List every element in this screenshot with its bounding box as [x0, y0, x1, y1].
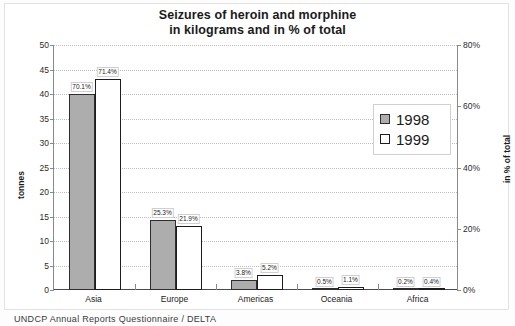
y-tick-label-left: 15: [25, 212, 49, 222]
y-tick-label-right: 80%: [463, 40, 497, 50]
chart-frame: Seizures of heroin and morphine in kilog…: [4, 3, 509, 310]
legend-swatch-1998-icon: [380, 114, 390, 124]
y-tick-left: [50, 143, 54, 144]
category-separator: [216, 284, 217, 290]
y-tick-label-left: 35: [25, 114, 49, 124]
y-tick-label-left: 30: [25, 138, 49, 148]
bar-europe-1999: [176, 226, 202, 290]
y-tick-label-left: 40: [25, 89, 49, 99]
data-label-asia-1998: 70.1%: [70, 82, 92, 92]
gridline: [54, 45, 457, 46]
y-tick-label-right: 40%: [463, 163, 497, 173]
x-tick-label-oceania: Oceania: [321, 294, 353, 304]
y-tick-label-left: 10: [25, 236, 49, 246]
bar-americas-1999: [257, 275, 283, 290]
y-tick-left: [50, 241, 54, 242]
y-tick-left: [50, 290, 54, 291]
data-label-europe-1998: 25.3%: [151, 208, 173, 218]
y-tick-right: [457, 229, 461, 230]
y-tick-left: [50, 192, 54, 193]
bar-europe-1998: [150, 220, 176, 290]
data-label-americas-1998: 3.8%: [234, 268, 253, 278]
y-tick-right: [457, 106, 461, 107]
data-label-africa-1998: 0.2%: [396, 277, 415, 287]
y-tick-left: [50, 217, 54, 218]
data-label-europe-1999: 21.9%: [177, 214, 199, 224]
y-tick-label-left: 0: [25, 285, 49, 295]
x-tick-label-americas: Americas: [238, 294, 273, 304]
y-tick-right: [457, 290, 461, 291]
legend-item-1999: 1999: [380, 129, 445, 149]
legend-swatch-1999-icon: [380, 134, 390, 144]
data-label-oceania-1998: 0.5%: [315, 277, 334, 287]
data-label-asia-1999: 71.4%: [96, 67, 118, 77]
y-tick-left: [50, 45, 54, 46]
bar-oceania-1998: [312, 288, 338, 290]
chart-title-line-1: Seizures of heroin and morphine: [159, 8, 357, 22]
category-separator: [135, 284, 136, 290]
x-tick-label-asia: Asia: [85, 294, 102, 304]
bar-asia-1998: [69, 94, 95, 290]
y-tick-label-right: 60%: [463, 101, 497, 111]
y-tick-left: [50, 168, 54, 169]
y-tick-label-right: 0%: [463, 285, 497, 295]
y-tick-label-left: 50: [25, 40, 49, 50]
y-tick-label-left: 25: [25, 163, 49, 173]
y-tick-left: [50, 266, 54, 267]
y-tick-left: [50, 119, 54, 120]
plot-area: 70.1%71.4%25.3%21.9%3.8%5.2%0.5%1.1%0.2%…: [53, 45, 458, 290]
category-separator: [297, 284, 298, 290]
chart-screenshot: Seizures of heroin and morphine in kilog…: [0, 0, 515, 326]
y-axis-title-right: in % of total: [502, 119, 512, 199]
chart-legend: 1998 1999: [373, 104, 451, 155]
bar-asia-1999: [95, 79, 121, 290]
legend-item-1998: 1998: [380, 109, 445, 129]
legend-label-1999: 1999: [396, 131, 429, 148]
y-tick-label-left: 45: [25, 65, 49, 75]
y-tick-label-left: 20: [25, 187, 49, 197]
y-tick-right: [457, 45, 461, 46]
data-label-oceania-1999: 1.1%: [341, 275, 360, 285]
y-tick-label-right: 20%: [463, 224, 497, 234]
y-tick-left: [50, 94, 54, 95]
y-tick-label-left: 5: [25, 261, 49, 271]
source-footer: UNDCP Annual Reports Questionnaire / DEL…: [14, 314, 216, 324]
chart-title-line-2: in kilograms and in % of total: [5, 23, 510, 38]
y-tick-left: [50, 70, 54, 71]
x-tick-label-africa: Africa: [407, 294, 429, 304]
category-separator: [378, 284, 379, 290]
bar-africa-1999: [419, 288, 445, 290]
bar-africa-1998: [393, 288, 419, 290]
bar-oceania-1999: [338, 287, 364, 290]
legend-label-1998: 1998: [396, 111, 429, 128]
y-tick-right: [457, 168, 461, 169]
data-label-africa-1999: 0.4%: [422, 277, 441, 287]
chart-title: Seizures of heroin and morphine in kilog…: [5, 8, 510, 38]
bar-americas-1998: [231, 280, 257, 290]
data-label-americas-1999: 5.2%: [260, 263, 279, 273]
x-tick-label-europe: Europe: [161, 294, 188, 304]
